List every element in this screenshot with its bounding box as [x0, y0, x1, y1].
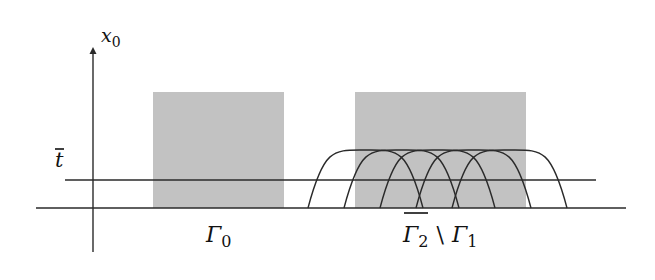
- svg-text:Γ2\Γ1: Γ2\Γ1: [402, 222, 477, 251]
- svg-text:t: t: [55, 148, 64, 172]
- region-gamma-0: [153, 92, 284, 208]
- diagram-canvas: x0 t Γ0 Γ2\Γ1: [0, 0, 655, 280]
- level-label-t-bar: t: [55, 148, 64, 172]
- axis-lines: [36, 47, 626, 252]
- axis-arrowhead-icon: [90, 47, 97, 54]
- region-label-gamma-2-bar-minus-gamma-1: Γ2\Γ1: [402, 213, 477, 251]
- region-label-gamma-0: Γ0: [205, 222, 231, 251]
- axis-label-x0: x0: [101, 24, 121, 50]
